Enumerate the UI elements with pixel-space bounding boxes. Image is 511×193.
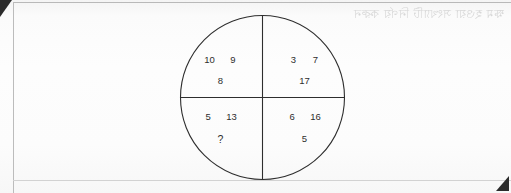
page-frame-top-rule: [13, 2, 511, 3]
number-cell: 5: [301, 134, 309, 144]
quadrant-top-left-center-row: 8: [179, 76, 262, 86]
circle-quadrant-diagram: 10 9 8 3 7 17 5 13 ?: [179, 14, 346, 181]
number-cell: 16: [310, 112, 321, 122]
quadrant-top-right-center-row: 17: [263, 76, 346, 86]
number-cell: 6: [288, 112, 296, 122]
quadrant-bottom-right-center-row: 5: [263, 134, 346, 144]
quadrant-bottom-right-outer-row: 6 16: [263, 112, 346, 122]
quadrant-top-left-outer-row: 10 9: [179, 55, 262, 65]
number-cell: 5: [204, 112, 212, 122]
quadrant-top-right-outer-row: 3 7: [263, 55, 346, 65]
number-cell: 13: [226, 112, 237, 122]
quadrant-bottom-left-center-row: ?: [179, 134, 262, 145]
scanned-page: ক্ষম হওয়া সংখ্যাটি নির্ণয় করুন 10 9 8 …: [0, 0, 511, 193]
corner-registration-mark-top-left: [0, 0, 12, 17]
unknown-value-placeholder: ?: [217, 134, 225, 145]
number-cell: 3: [290, 55, 298, 65]
corner-registration-mark-bottom-right: [496, 176, 509, 191]
number-cell: 7: [312, 55, 320, 65]
number-cell: 17: [299, 76, 310, 86]
quadrant-bottom-right: 6 16 5: [263, 98, 346, 181]
quadrant-bottom-left: 5 13 ?: [179, 98, 262, 181]
quadrant-bottom-left-outer-row: 5 13: [179, 112, 262, 122]
number-cell: 9: [229, 55, 237, 65]
number-cell: 10: [204, 55, 215, 65]
quadrant-top-left: 10 9 8: [179, 14, 262, 97]
quadrant-top-right: 3 7 17: [263, 14, 346, 97]
number-cell: 8: [217, 76, 225, 86]
page-frame-left-rule: [13, 2, 14, 193]
